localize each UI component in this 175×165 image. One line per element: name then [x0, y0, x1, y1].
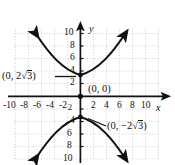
point-upper-vertex: [78, 73, 83, 78]
annotation-upper-vertex-open: (0, 2: [2, 70, 21, 81]
x-tick-neg-4: -4: [46, 101, 54, 111]
y-tick-neg-6: 6: [67, 129, 72, 139]
x-tick-neg-8: -8: [20, 101, 28, 111]
y-tick-6: 6: [70, 53, 75, 63]
annotation-upper-vertex: (0, 2√3): [2, 70, 36, 82]
radical-icon-lower: √: [132, 121, 138, 132]
y-tick-2: 2: [70, 78, 75, 88]
x-tick-10: 10: [141, 101, 151, 111]
annotation-upper-vertex-close: ): [32, 70, 36, 81]
annotation-origin: (0, 0): [88, 84, 111, 95]
point-origin: [78, 94, 83, 99]
x-tick-4: 4: [104, 101, 109, 111]
y-axis-label: y: [89, 24, 93, 34]
grid-lines: [14, 28, 160, 160]
y-tick-10: 10: [64, 28, 74, 38]
y-tick-neg-10: 10: [63, 154, 73, 164]
x-tick-neg-6: -6: [33, 101, 41, 111]
axis-lines: [8, 26, 166, 163]
y-tick-neg-2: 2: [68, 104, 72, 112]
radical-icon: √: [21, 71, 27, 82]
x-tick-6: 6: [117, 101, 122, 111]
x-tick-8: 8: [130, 101, 135, 111]
y-tick-8: 8: [70, 41, 75, 51]
graph-figure: y x 10 8 6 4 2 2 4 6 8 10 -10 -8 -6 -4 -…: [0, 0, 175, 165]
x-tick-neg-10: -10: [3, 101, 16, 111]
x-axis-label: x: [156, 103, 160, 113]
annotation-lower-vertex: (0, −2√3): [107, 120, 147, 132]
point-lower-vertex: [78, 115, 83, 120]
x-tick-2: 2: [91, 101, 96, 111]
x-tick-neg-2: -2: [59, 101, 67, 111]
y-tick-neg-8: 8: [67, 141, 72, 151]
annotation-lower-vertex-close: ): [143, 120, 147, 131]
annotation-lower-vertex-open: (0, −2: [107, 120, 132, 131]
y-tick-4: 4: [70, 66, 75, 76]
y-tick-neg-4: 4: [70, 116, 75, 126]
